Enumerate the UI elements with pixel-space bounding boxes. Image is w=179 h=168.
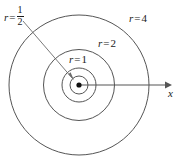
leader-line-r-half xyxy=(23,21,73,79)
fraction-one-half: 12 xyxy=(17,5,24,27)
label-r-4-value: 4 xyxy=(142,12,148,24)
label-r-2-equals: = xyxy=(102,37,110,49)
x-axis-label: x xyxy=(168,88,173,99)
figure-canvas xyxy=(0,0,179,168)
label-r-4: r=4 xyxy=(129,13,147,24)
label-r-4-equals: = xyxy=(133,12,141,24)
label-r-2-value: 2 xyxy=(111,37,117,49)
origin-dot xyxy=(76,82,81,87)
polar-circles-figure: r=12 r=4 r=2 r=1 x xyxy=(0,0,179,168)
fraction-numerator: 1 xyxy=(17,5,24,15)
label-r-1-equals: = xyxy=(73,53,81,65)
leader-line-arrowhead xyxy=(68,72,74,80)
label-r-half: r=12 xyxy=(4,5,24,27)
label-r-half-equals: = xyxy=(8,11,16,23)
label-r-1-value: 1 xyxy=(82,53,88,65)
fraction-denominator: 2 xyxy=(17,17,24,27)
label-r-2: r=2 xyxy=(98,38,116,49)
label-r-1: r=1 xyxy=(69,54,87,65)
